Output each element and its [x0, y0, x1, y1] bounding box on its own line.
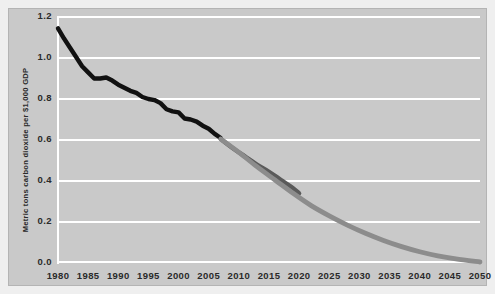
x-tick-label: 2020 [288, 270, 311, 281]
x-tick-label: 1985 [77, 270, 100, 281]
x-tick-label: 1990 [107, 270, 130, 281]
series-line [221, 139, 480, 262]
x-tick-label: 2025 [318, 270, 341, 281]
x-tick-label: 1995 [137, 270, 160, 281]
y-tick-label: 0.6 [6, 134, 52, 144]
x-tick-label: 2000 [167, 270, 190, 281]
chart-figure: Metric tons carbon dioxide per $1,000 GD… [0, 0, 495, 294]
x-tick-label: 2010 [227, 270, 250, 281]
y-axis-tick-labels: 0.00.20.40.60.81.01.2 [4, 0, 52, 294]
x-tick-label: 2015 [258, 270, 281, 281]
series-layer [58, 16, 480, 262]
y-tick-label: 0.0 [6, 257, 52, 267]
x-tick-label: 2050 [469, 270, 492, 281]
x-tick-label: 2030 [348, 270, 371, 281]
y-tick-label: 1.2 [6, 11, 52, 21]
x-axis-tick-labels: 1980198519901995200020052010201520202025… [58, 270, 480, 286]
plot-area [58, 16, 480, 262]
x-tick-label: 2005 [197, 270, 220, 281]
x-tick-label: 1980 [47, 270, 70, 281]
x-tick-label: 2035 [378, 270, 401, 281]
y-tick-label: 0.2 [6, 216, 52, 226]
y-tick-label: 0.8 [6, 93, 52, 103]
x-tick-label: 2040 [408, 270, 431, 281]
y-tick-label: 0.4 [6, 175, 52, 185]
series-line [58, 28, 221, 138]
y-tick-label: 1.0 [6, 52, 52, 62]
x-tick-label: 2045 [438, 270, 461, 281]
